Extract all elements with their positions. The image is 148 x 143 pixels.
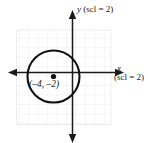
circle-graph-figure: y (scl = 2) x (scl = 2) (–4, –2): [0, 0, 148, 143]
y-axis-variable: y: [77, 4, 81, 14]
x-axis-label: x (scl = 2): [117, 64, 144, 83]
y-axis-scale: (scl = 2): [83, 4, 113, 14]
x-axis-scale: (scl = 2): [114, 73, 144, 82]
y-axis-label: y (scl = 2): [77, 5, 113, 14]
grid-region: [17, 30, 112, 125]
center-point-label: (–4, –2): [29, 79, 59, 89]
